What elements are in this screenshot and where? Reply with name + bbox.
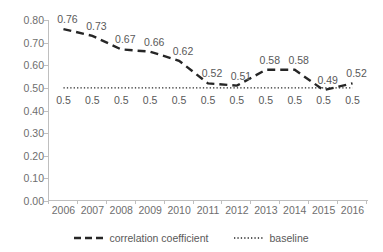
legend-entry-correlation-coefficient: correlation coefficient <box>74 233 208 244</box>
x-axis-tick-label: 2011 <box>197 205 220 216</box>
baseline-data-label: 0.5 <box>287 95 302 106</box>
baseline-data-label: 0.5 <box>114 95 129 106</box>
data-label: 0.51 <box>231 71 251 82</box>
baseline-data-label: 0.5 <box>172 95 187 106</box>
x-axis-tick-label: 2010 <box>167 205 190 216</box>
y-axis-tick-label: 0.80 <box>0 15 44 26</box>
baseline-data-label: 0.5 <box>345 95 360 106</box>
y-axis-tick <box>44 178 48 179</box>
y-axis-tick-label: 0.10 <box>0 173 44 184</box>
chart-legend: correlation coefficient baseline <box>0 228 383 248</box>
y-axis-tick <box>44 65 48 66</box>
y-axis-tick <box>44 20 48 21</box>
x-axis-tick-label: 2013 <box>254 205 277 216</box>
y-axis-tick <box>44 111 48 112</box>
y-axis-tick-label: 0.00 <box>0 196 44 207</box>
y-axis-tick-label: 0.70 <box>0 37 44 48</box>
y-axis-tick-label: 0.40 <box>0 105 44 116</box>
y-axis-labels: 0.000.100.200.300.400.500.600.700.80 <box>0 20 44 201</box>
y-axis-tick <box>44 156 48 157</box>
dashed-line-marker <box>74 234 104 242</box>
baseline-data-label: 0.5 <box>143 95 158 106</box>
y-axis-tick-label: 0.50 <box>0 83 44 94</box>
dotted-line-marker <box>234 234 264 242</box>
series-lines <box>49 20 367 201</box>
data-label: 0.66 <box>144 37 164 48</box>
x-axis-tick-label: 2007 <box>81 205 104 216</box>
baseline-data-label: 0.5 <box>56 95 71 106</box>
legend-entry-baseline: baseline <box>234 233 308 244</box>
y-axis-tick-label: 0.30 <box>0 128 44 139</box>
data-label: 0.52 <box>346 68 366 79</box>
data-label: 0.52 <box>202 68 222 79</box>
y-axis-tick <box>44 133 48 134</box>
x-axis-tick-label: 2012 <box>225 205 248 216</box>
x-axis-labels: 2006200720082009201020112012201320142015… <box>49 205 367 221</box>
y-axis-tick <box>44 43 48 44</box>
data-label: 0.73 <box>86 21 106 32</box>
baseline-data-label: 0.5 <box>230 95 245 106</box>
legend-label-baseline: baseline <box>269 233 308 244</box>
x-axis-tick-label: 2016 <box>341 205 364 216</box>
baseline-data-label: 0.5 <box>316 95 331 106</box>
x-axis-tick-label: 2015 <box>312 205 335 216</box>
x-axis-tick-label: 2009 <box>138 205 161 216</box>
data-label: 0.76 <box>57 14 77 25</box>
correlation-coefficient-line <box>63 29 352 90</box>
y-axis-tick-label: 0.20 <box>0 151 44 162</box>
y-axis-tick-label: 0.60 <box>0 60 44 71</box>
x-axis-tick-label: 2006 <box>52 205 75 216</box>
line-chart: 0.000.100.200.300.400.500.600.700.80 0.7… <box>0 0 383 252</box>
baseline-data-label: 0.5 <box>85 95 100 106</box>
legend-label-correlation-coefficient: correlation coefficient <box>109 233 208 244</box>
data-label: 0.58 <box>289 55 309 66</box>
data-label: 0.62 <box>173 46 193 57</box>
data-label: 0.49 <box>317 75 337 86</box>
plot-area: 0.760.730.670.660.620.520.510.580.580.49… <box>49 20 367 201</box>
x-axis-tick-label: 2008 <box>110 205 133 216</box>
data-label: 0.67 <box>115 34 135 45</box>
data-label: 0.58 <box>260 55 280 66</box>
x-axis-tick-label: 2014 <box>283 205 306 216</box>
y-axis-tick <box>44 88 48 89</box>
baseline-data-label: 0.5 <box>259 95 274 106</box>
baseline-data-label: 0.5 <box>201 95 216 106</box>
